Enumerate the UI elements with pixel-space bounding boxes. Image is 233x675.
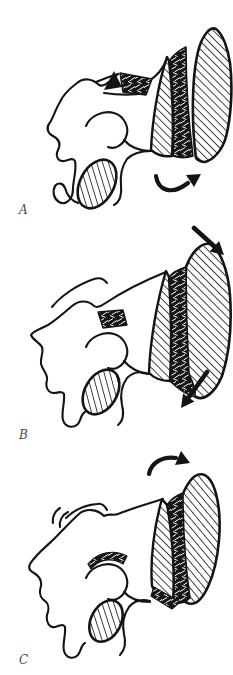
notch-crescent	[88, 552, 127, 569]
figure-three-panel-illustration: A	[0, 0, 233, 675]
glenoid-wedge	[151, 57, 173, 156]
wedge-graft-arrow-icon	[104, 71, 152, 95]
inferior-bone-cut-surface	[75, 363, 127, 421]
panel-c: C	[0, 450, 233, 675]
panel-c-label: C	[19, 654, 29, 666]
posterior-fragment	[186, 244, 231, 398]
panel-b: B	[0, 225, 233, 450]
notch-wedge	[98, 310, 127, 328]
inferior-bone-cut-surface	[70, 153, 124, 215]
panel-a-illustration	[0, 0, 233, 225]
panel-a: A	[0, 0, 233, 225]
inferior-bone-cut-surface	[83, 595, 130, 648]
glenoid-graft-complex	[151, 28, 231, 162]
panel-c-illustration	[0, 450, 233, 675]
curved-rotation-arrow-icon	[149, 451, 190, 474]
glenoid-graft-complex	[149, 244, 231, 398]
glenoid-graft-complex	[151, 472, 225, 609]
panel-a-label: A	[19, 204, 28, 216]
curved-rotation-arrow-icon	[156, 174, 201, 190]
posterior-fragment	[193, 28, 232, 162]
panel-b-illustration	[0, 225, 233, 450]
glenoid-wedge	[149, 271, 171, 381]
panel-b-label: B	[19, 429, 28, 441]
